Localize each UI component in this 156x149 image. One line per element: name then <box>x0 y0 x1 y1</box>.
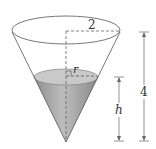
top-radius-label: 2 <box>88 19 96 31</box>
cone-diagram: 2 4 r h <box>0 0 156 149</box>
cone-rim <box>12 16 120 44</box>
height-label: 4 <box>140 86 148 98</box>
liquid-height-label: h <box>115 104 123 116</box>
liquid-radius-label: r <box>73 64 78 75</box>
